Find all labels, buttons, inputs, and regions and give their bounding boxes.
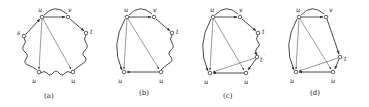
label-t-prime: t [260,56,263,64]
node-s [22,34,26,38]
label-v: v [68,6,72,14]
label-u: u [210,6,214,14]
label-t-prime: t [344,55,347,63]
label-v: v [329,6,333,14]
node-u [211,15,215,19]
node-t [170,31,174,35]
label-s: s [17,29,21,37]
edge-u-u1 [128,19,159,69]
edge-s-u [26,19,40,34]
node-t-prime [338,55,342,59]
edge-u-u1 [43,19,71,69]
edge-t1-u1 [335,59,339,69]
edge-u-u1 [300,19,331,69]
node-v [152,15,156,19]
edge-arc-u-v [129,9,152,15]
node-u-double-prime [37,70,41,74]
edge-t1-u2 [213,58,255,72]
path-t-u1 [161,35,173,70]
node-u [125,15,129,19]
prime-u-double-prime: ′′ [122,75,124,80]
label-v: v [239,6,243,14]
node-t [256,31,260,35]
edge-arc-u-v [215,9,238,15]
prime-u-prime: ′ [75,75,76,80]
edge-u-u2 [39,19,42,69]
label-u: u [38,6,42,14]
path-t-t1 [256,35,260,55]
label-u: u [296,6,300,14]
label-t: t [176,28,179,36]
prime-u-prime: ′ [163,75,164,80]
edge-u-u2 [210,19,213,70]
prime-u-double-prime: ′′ [294,75,296,80]
node-v [66,15,70,19]
node-v [324,15,328,19]
path-t-u1 [74,35,87,70]
node-u-prime [71,70,75,74]
edge-t1-u1 [248,59,256,70]
node-u-prime [331,70,335,74]
edge-v-t [242,19,256,31]
edge-v-t1 [327,19,339,54]
edge-u-u2 [296,19,299,69]
node-u-double-prime [208,71,212,75]
prime-u-prime: ′ [335,75,336,80]
panel-c: u v t t ′ u ′′ u ′ (c) [203,6,265,100]
node-u-double-prime [294,70,298,74]
caption-a: (a) [44,92,54,100]
node-t [84,31,88,35]
edge-arc-u-u2 [289,19,297,70]
edge-u-u1 [214,19,244,70]
label-t: t [90,28,93,36]
node-u [297,15,301,19]
prime-u-double-prime: ′′ [36,75,38,80]
label-t: t [262,28,265,36]
prime-t-prime: ′ [264,54,265,59]
edge-arc-u-u2 [117,19,125,70]
node-t-prime [255,55,259,59]
edge-v-t [156,19,170,31]
edge-v-t [70,19,84,31]
caption-c: (c) [223,92,233,100]
edge-arc-u-v [44,9,67,15]
prime-u-prime: ′ [248,76,249,81]
edge-t1-u2 [299,58,338,71]
edge-u-u2 [124,19,127,69]
label-u: u [124,6,128,14]
panel-d: u v t ′ u ′′ u ′ (d) [289,6,349,97]
panel-b: u v t u ′′ u ′ (b) [117,6,179,97]
caption-b: (b) [139,89,149,97]
node-u [40,15,44,19]
node-v [238,15,242,19]
edge-arc-u-v [301,9,324,15]
node-u-prime [244,71,248,75]
path-u1-u2 [41,71,71,75]
node-u-double-prime [122,70,126,74]
prime-u-double-prime: ′′ [208,76,210,81]
prime-t-prime: ′ [348,53,349,58]
caption-d: (d) [310,89,320,97]
path-s-u2 [23,38,37,70]
edge-arc-u-u2 [203,19,211,71]
panel-a: u v t s u ′′ u ′ (a) [17,6,93,100]
node-u-prime [159,70,163,74]
label-v: v [153,6,157,14]
figure-diagram: u v t s u ′′ u ′ (a) u v t u ′′ u ′ (b) [0,0,369,107]
